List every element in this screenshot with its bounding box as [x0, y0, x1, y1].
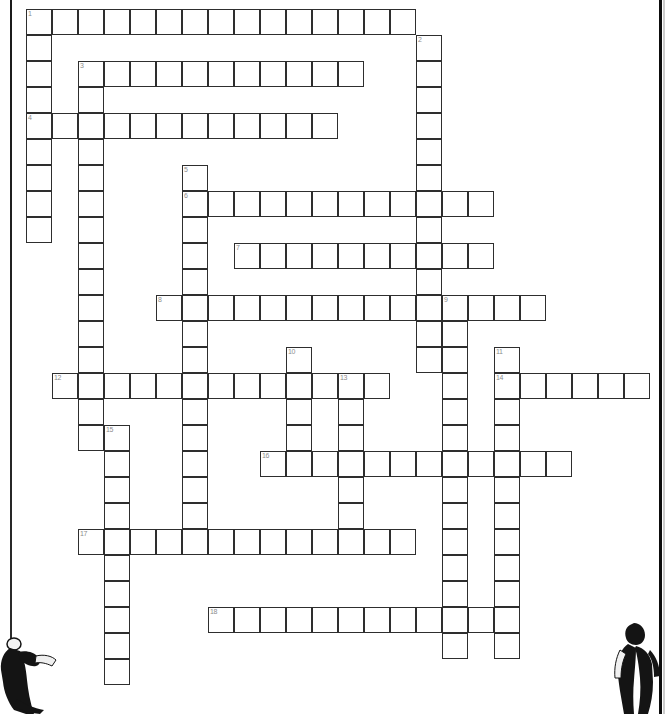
crossword-cell[interactable] — [468, 243, 494, 269]
crossword-cell[interactable] — [182, 503, 208, 529]
crossword-cell[interactable] — [234, 295, 260, 321]
crossword-cell[interactable] — [338, 295, 364, 321]
crossword-cell[interactable] — [416, 347, 442, 373]
crossword-cell[interactable] — [468, 191, 494, 217]
crossword-cell[interactable] — [260, 295, 286, 321]
crossword-cell[interactable] — [260, 191, 286, 217]
crossword-cell[interactable] — [494, 529, 520, 555]
crossword-cell[interactable]: 11 — [494, 347, 520, 373]
crossword-cell[interactable] — [156, 9, 182, 35]
crossword-cell[interactable] — [286, 529, 312, 555]
crossword-cell[interactable] — [182, 9, 208, 35]
crossword-cell[interactable] — [26, 35, 52, 61]
crossword-cell[interactable] — [442, 529, 468, 555]
crossword-cell[interactable] — [78, 217, 104, 243]
crossword-cell[interactable] — [442, 503, 468, 529]
crossword-cell[interactable] — [182, 451, 208, 477]
crossword-cell[interactable] — [130, 9, 156, 35]
crossword-cell[interactable] — [182, 529, 208, 555]
crossword-cell[interactable] — [78, 399, 104, 425]
crossword-cell[interactable] — [286, 113, 312, 139]
crossword-cell[interactable] — [364, 529, 390, 555]
crossword-cell[interactable] — [442, 347, 468, 373]
crossword-cell[interactable] — [182, 477, 208, 503]
crossword-cell[interactable] — [364, 295, 390, 321]
crossword-cell[interactable]: 2 — [416, 35, 442, 61]
crossword-cell[interactable] — [182, 347, 208, 373]
crossword-cell[interactable] — [286, 373, 312, 399]
crossword-cell[interactable] — [312, 9, 338, 35]
crossword-cell[interactable] — [260, 61, 286, 87]
crossword-cell[interactable]: 4 — [26, 113, 52, 139]
crossword-cell[interactable] — [416, 139, 442, 165]
crossword-cell[interactable] — [104, 9, 130, 35]
crossword-cell[interactable] — [130, 61, 156, 87]
crossword-cell[interactable] — [234, 61, 260, 87]
crossword-cell[interactable] — [182, 399, 208, 425]
crossword-cell[interactable] — [156, 529, 182, 555]
crossword-cell[interactable] — [364, 191, 390, 217]
crossword-cell[interactable] — [26, 139, 52, 165]
crossword-cell[interactable] — [26, 165, 52, 191]
crossword-cell[interactable] — [182, 243, 208, 269]
crossword-cell[interactable] — [234, 9, 260, 35]
crossword-cell[interactable] — [338, 191, 364, 217]
crossword-cell[interactable] — [286, 191, 312, 217]
crossword-cell[interactable] — [312, 373, 338, 399]
crossword-cell[interactable] — [104, 659, 130, 685]
crossword-cell[interactable] — [78, 295, 104, 321]
crossword-cell[interactable] — [520, 373, 546, 399]
crossword-cell[interactable]: 15 — [104, 425, 130, 451]
crossword-cell[interactable] — [364, 243, 390, 269]
crossword-cell[interactable]: 3 — [78, 61, 104, 87]
crossword-cell[interactable] — [338, 477, 364, 503]
crossword-cell[interactable] — [520, 451, 546, 477]
crossword-cell[interactable] — [78, 165, 104, 191]
crossword-cell[interactable] — [156, 61, 182, 87]
crossword-cell[interactable] — [234, 607, 260, 633]
crossword-cell[interactable] — [286, 399, 312, 425]
crossword-cell[interactable] — [494, 633, 520, 659]
crossword-cell[interactable] — [260, 243, 286, 269]
crossword-cell[interactable] — [494, 399, 520, 425]
crossword-cell[interactable] — [416, 191, 442, 217]
crossword-cell[interactable] — [78, 347, 104, 373]
crossword-cell[interactable] — [234, 529, 260, 555]
crossword-cell[interactable] — [494, 607, 520, 633]
crossword-cell[interactable] — [468, 295, 494, 321]
crossword-cell[interactable] — [312, 451, 338, 477]
crossword-grid[interactable]: 123456789101112131415161718 — [0, 0, 666, 714]
crossword-cell[interactable] — [598, 373, 624, 399]
crossword-cell[interactable] — [442, 243, 468, 269]
crossword-cell[interactable] — [182, 61, 208, 87]
crossword-cell[interactable] — [78, 139, 104, 165]
crossword-cell[interactable] — [208, 61, 234, 87]
crossword-cell[interactable] — [390, 9, 416, 35]
crossword-cell[interactable] — [130, 529, 156, 555]
crossword-cell[interactable] — [416, 87, 442, 113]
crossword-cell[interactable] — [286, 61, 312, 87]
crossword-cell[interactable] — [26, 217, 52, 243]
crossword-cell[interactable] — [26, 61, 52, 87]
crossword-cell[interactable]: 16 — [260, 451, 286, 477]
crossword-cell[interactable] — [286, 451, 312, 477]
crossword-cell[interactable] — [208, 113, 234, 139]
crossword-cell[interactable] — [286, 295, 312, 321]
crossword-cell[interactable] — [494, 555, 520, 581]
crossword-cell[interactable] — [312, 191, 338, 217]
crossword-cell[interactable] — [104, 373, 130, 399]
crossword-cell[interactable] — [312, 529, 338, 555]
crossword-cell[interactable] — [468, 607, 494, 633]
crossword-cell[interactable]: 1 — [26, 9, 52, 35]
crossword-cell[interactable] — [78, 243, 104, 269]
crossword-cell[interactable] — [442, 425, 468, 451]
crossword-cell[interactable] — [442, 321, 468, 347]
crossword-cell[interactable] — [130, 113, 156, 139]
crossword-cell[interactable] — [104, 113, 130, 139]
crossword-cell[interactable]: 18 — [208, 607, 234, 633]
crossword-cell[interactable] — [78, 269, 104, 295]
crossword-cell[interactable] — [442, 399, 468, 425]
crossword-cell[interactable] — [390, 529, 416, 555]
crossword-cell[interactable] — [26, 87, 52, 113]
crossword-cell[interactable] — [104, 581, 130, 607]
